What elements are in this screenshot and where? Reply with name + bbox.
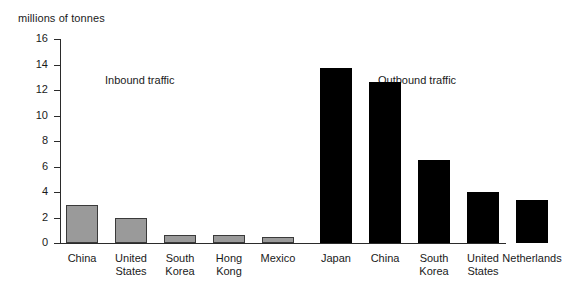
y-tick-label: 10 (8, 109, 48, 121)
annotation-inbound-traffic: Inbound traffic (105, 74, 175, 86)
bar-outbound-1 (369, 82, 401, 243)
y-tick-label: 16 (8, 32, 48, 44)
bar-inbound-2 (164, 235, 196, 243)
y-tick-mark (54, 167, 60, 168)
bar-outbound-0 (320, 68, 352, 243)
y-tick-label: 6 (8, 160, 48, 172)
bar-inbound-1 (115, 218, 147, 244)
bar-outbound-4 (516, 200, 548, 243)
bar-inbound-0 (66, 205, 98, 243)
y-tick-mark (54, 116, 60, 117)
y-tick-mark (54, 65, 60, 66)
bar-outbound-3 (467, 192, 499, 243)
y-tick-mark (54, 243, 60, 244)
y-tick-label: 14 (8, 58, 48, 70)
x-label-line: Kong (189, 265, 269, 278)
y-tick-mark (54, 141, 60, 142)
x-label-outbound-4: Netherlands (492, 252, 566, 265)
x-label-line: States (443, 265, 523, 278)
y-tick-mark (54, 90, 60, 91)
y-tick-label: 4 (8, 185, 48, 197)
y-tick-mark (54, 218, 60, 219)
y-tick-label: 12 (8, 83, 48, 95)
y-tick-label: 8 (8, 134, 48, 146)
y-axis-title: millions of tonnes (18, 12, 105, 24)
y-tick-mark (54, 192, 60, 193)
y-axis-line (60, 39, 61, 244)
x-axis-line (60, 243, 506, 244)
x-label-line: Netherlands (492, 252, 566, 265)
bar-inbound-3 (213, 235, 245, 243)
y-tick-mark (54, 39, 60, 40)
bar-outbound-2 (418, 160, 450, 243)
bar-inbound-4 (262, 237, 294, 243)
y-tick-label: 0 (8, 236, 48, 248)
y-tick-label: 2 (8, 211, 48, 223)
